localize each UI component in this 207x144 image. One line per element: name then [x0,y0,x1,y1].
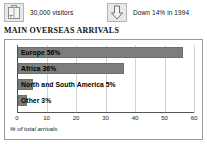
x-axis-tick-label: 10 [43,114,50,123]
chart-bar-label: North and South America 5% [21,79,116,90]
down-arrow-icon [107,3,127,22]
chart-inner: Europe 56%Africa 36%North and South Amer… [5,40,202,139]
stat-visitors-label: 30,000 visitors [30,8,73,17]
x-axis-tick-label: 40 [132,114,139,123]
chart-bar-row: North and South America 5% [18,79,195,90]
chart-plot-area: Europe 56%Africa 36%North and South Amer… [17,45,194,113]
chart-bar-row: Europe 56% [18,47,195,58]
stat-change-label: Down 14% in 1994 [133,8,189,17]
x-axis-tick-label: 50 [161,114,168,123]
chart-bar-label: Other 3% [21,95,51,106]
x-axis-tick-label: 60 [191,114,198,123]
chart-bar-label: Europe 56% [21,47,60,58]
infographic-root: 30,000 visitors Down 14% in 1994 MAIN OV… [0,0,207,144]
chart-bar-label: Africa 36% [21,63,56,74]
y-axis-line [17,45,18,113]
x-axis-line [17,112,194,113]
x-axis-tick-labels: 0102030405060 [17,114,194,123]
chart-bar-row: Other 3% [18,95,195,106]
stat-strip: 30,000 visitors Down 14% in 1994 [0,0,207,24]
stat-visitors: 30,000 visitors [4,2,73,22]
suitcase-icon [4,3,24,22]
chart-container: Europe 56%Africa 36%North and South Amer… [4,39,203,140]
section-title: MAIN OVERSEAS ARRIVALS [4,26,119,36]
x-axis-tick-label: 30 [102,114,109,123]
x-axis-tick-label: 0 [15,114,18,123]
x-axis-caption: % of total arrivals [10,124,57,133]
x-axis-tick-label: 20 [73,114,80,123]
chart-bar-row: Africa 36% [18,63,195,74]
stat-change: Down 14% in 1994 [107,2,189,22]
